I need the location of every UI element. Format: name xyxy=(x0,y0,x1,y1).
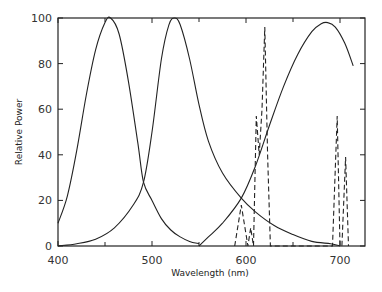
y-tick-label: 20 xyxy=(38,194,52,207)
x-tick-label: 400 xyxy=(48,254,69,267)
x-tick-label: 500 xyxy=(142,254,163,267)
plot-border xyxy=(58,18,365,246)
y-tick-label: 60 xyxy=(38,103,52,116)
series-layer xyxy=(58,17,353,246)
y-tick-label: 100 xyxy=(31,12,52,25)
y-tick-label: 80 xyxy=(38,58,52,71)
x-axis-ticks: 400500600700 xyxy=(48,18,351,267)
series-phosphor-line-spectrum xyxy=(235,27,349,246)
x-axis-title: Wavelength (nm) xyxy=(171,268,249,278)
plot-frame xyxy=(58,18,365,246)
y-tick-label: 0 xyxy=(45,240,52,253)
x-tick-label: 700 xyxy=(330,254,351,267)
y-axis-ticks: 020406080100 xyxy=(31,12,365,253)
x-tick-label: 600 xyxy=(236,254,257,267)
y-axis-title: Relative Power xyxy=(14,99,24,166)
chart: 400500600700 020406080100 Wavelength (nm… xyxy=(0,0,382,292)
series-red-primary xyxy=(199,22,353,246)
y-tick-label: 40 xyxy=(38,149,52,162)
series-green-primary xyxy=(58,18,340,246)
series-blue-primary xyxy=(58,17,199,244)
